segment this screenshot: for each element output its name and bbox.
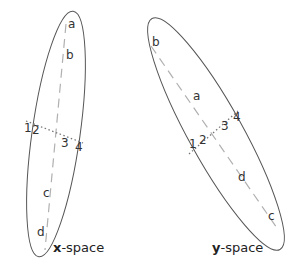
y-label-c: c <box>268 209 275 223</box>
y-space-panel: b a 1 2 3 4 d c y-space <box>128 5 302 262</box>
y-label-4: 4 <box>233 110 241 124</box>
x-space-caption: x-space <box>53 240 104 255</box>
x-label-1: 1 <box>24 121 32 135</box>
diagram-canvas: a b 1 2 3 4 c d x-space b a 1 2 3 4 d c … <box>0 0 302 271</box>
x-space-caption-rest: -space <box>61 240 104 255</box>
x-label-a: a <box>68 17 75 31</box>
y-space-caption: y-space <box>212 240 263 255</box>
x-label-4: 4 <box>75 140 83 154</box>
x-label-d: d <box>37 225 45 239</box>
y-label-b: b <box>152 35 160 49</box>
y-label-a: a <box>193 89 200 103</box>
y-major-axis-dashed <box>151 46 277 228</box>
y-label-1: 1 <box>189 137 197 151</box>
x-label-2: 2 <box>32 123 40 137</box>
x-space-panel: a b 1 2 3 4 c d x-space <box>15 8 104 260</box>
x-label-c: c <box>43 186 50 200</box>
y-label-3: 3 <box>221 119 229 133</box>
x-label-b: b <box>66 48 74 62</box>
y-label-2: 2 <box>199 133 207 147</box>
y-space-caption-rest: -space <box>220 240 263 255</box>
y-label-d: d <box>238 170 246 184</box>
x-label-3: 3 <box>61 136 69 150</box>
